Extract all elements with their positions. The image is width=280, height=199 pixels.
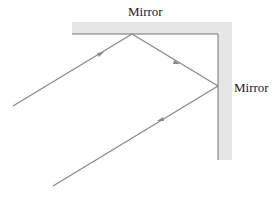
side-mirror-label: Mirror: [234, 80, 269, 96]
arrow-icon: [157, 117, 164, 121]
reflected-ray-1: [132, 34, 218, 86]
incoming-ray: [13, 34, 132, 106]
top-mirror-label: Mirror: [128, 4, 163, 20]
top-mirror: [72, 22, 232, 34]
diagram: [0, 0, 280, 199]
outgoing-ray: [53, 86, 218, 186]
side-mirror: [218, 22, 232, 160]
arrow-icon: [97, 52, 104, 57]
